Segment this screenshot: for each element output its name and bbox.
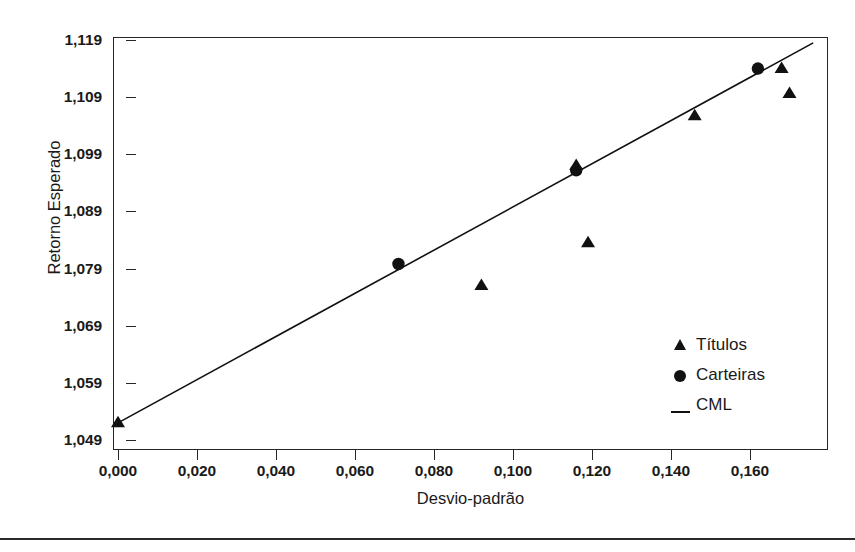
triangle-marker-icon (668, 332, 694, 358)
x-tick-mark (355, 450, 356, 460)
legend-item-carteiras: Carteiras (668, 360, 818, 390)
y-tick-mark (126, 326, 136, 327)
x-tick-mark (513, 450, 514, 460)
legend-label-titulos: Títulos (694, 335, 747, 355)
x-tick-label: 0,020 (152, 462, 242, 480)
x-tick-label: 0,160 (705, 462, 795, 480)
x-tick-mark (197, 450, 198, 460)
line-marker-icon (668, 392, 694, 418)
x-tick-label: 0,140 (626, 462, 716, 480)
chart-figure: 1,0491,0591,0691,0791,0891,0991,1091,119… (0, 0, 855, 552)
chart-legend: Títulos Carteiras CML (668, 330, 818, 420)
x-tick-label: 0,080 (389, 462, 479, 480)
y-tick-label: 1,099 (28, 145, 102, 163)
x-tick-mark (671, 450, 672, 460)
legend-label-carteiras: Carteiras (694, 365, 765, 385)
y-tick-label: 1,069 (28, 317, 102, 335)
y-tick-label: 1,059 (28, 374, 102, 392)
x-tick-label: 0,100 (468, 462, 558, 480)
y-tick-label: 1,119 (28, 31, 102, 49)
x-tick-mark (750, 450, 751, 460)
y-tick-label: 1,089 (28, 202, 102, 220)
x-tick-label: 0,120 (547, 462, 637, 480)
x-tick-label: 0,060 (310, 462, 400, 480)
y-tick-mark (126, 154, 136, 155)
x-tick-mark (118, 450, 119, 460)
x-axis-title: Desvio-padrão (113, 489, 828, 508)
y-tick-mark (126, 211, 136, 212)
legend-item-titulos: Títulos (668, 330, 818, 360)
circle-marker-icon (668, 362, 694, 388)
y-tick-label: 1,109 (28, 88, 102, 106)
footer-divider (0, 538, 855, 540)
y-tick-mark (126, 40, 136, 41)
y-tick-mark (126, 383, 136, 384)
x-tick-mark (592, 450, 593, 460)
y-tick-mark (126, 269, 136, 270)
x-tick-label: 0,040 (231, 462, 321, 480)
x-tick-mark (276, 450, 277, 460)
legend-item-cml: CML (668, 390, 818, 420)
y-axis-title: Retorno Esperado (45, 78, 64, 338)
y-tick-mark (126, 440, 136, 441)
x-tick-mark (434, 450, 435, 460)
y-tick-mark (126, 97, 136, 98)
x-tick-label: 0,000 (73, 462, 163, 480)
y-tick-label: 1,079 (28, 260, 102, 278)
legend-label-cml: CML (694, 395, 732, 415)
y-tick-label: 1,049 (28, 431, 102, 449)
